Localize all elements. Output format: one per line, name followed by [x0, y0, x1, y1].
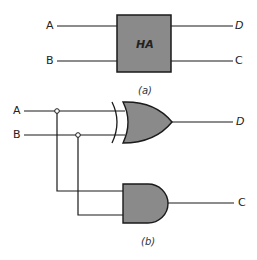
junction-a — [55, 109, 60, 114]
input-b-label: B — [46, 55, 54, 66]
half-adder-label: HA — [136, 38, 154, 51]
input-a-label-b: A — [13, 105, 21, 116]
and-gate — [123, 184, 168, 223]
xor-input-arc — [112, 102, 117, 143]
caption-a: (a) — [138, 86, 152, 96]
panel-b — [24, 102, 234, 223]
output-c-label-b: C — [238, 197, 246, 208]
caption-b: (b) — [141, 237, 155, 247]
input-a-label: A — [46, 20, 54, 31]
half-adder-diagram — [0, 0, 257, 260]
output-d-label: D — [235, 20, 243, 31]
junction-b — [76, 133, 81, 138]
output-c-label: C — [235, 55, 243, 66]
wire-a-branch — [57, 111, 123, 191]
wire-b-branch — [78, 135, 123, 215]
output-d-label-b: D — [236, 116, 244, 127]
xor-gate — [123, 102, 172, 143]
input-b-label-b: B — [13, 129, 21, 140]
